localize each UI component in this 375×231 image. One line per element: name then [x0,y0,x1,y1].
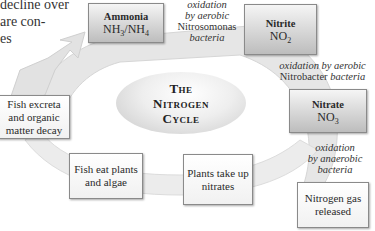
title-line-1: The [169,81,192,96]
fish-eat-line: and algae [85,176,127,189]
nitrogen-gas-line: Nitrogen gas [305,192,362,205]
node-nitrite: Nitrite NO2 [244,4,317,55]
nitrogen-gas-line: released [315,205,351,218]
fish-excreta-line: and organic [8,111,59,124]
title-line-2: Nitrogen [153,96,209,111]
label-nitrite-to-nitrate: oxidation by aerobic Nitrobacter bacteri… [270,60,375,82]
node-nitrogen-gas: Nitrogen gas released [297,182,369,228]
nitrite-formula: NO2 [270,30,291,43]
fish-excreta-line: matter decay [6,124,63,137]
node-plants-take-up: Plants take up nitrates [183,154,253,205]
ammonia-formula: NH3/NH4 [103,23,149,36]
plants-line: nitrates [202,180,234,193]
nitrate-formula: NO3 [317,111,338,124]
fish-eat-line: Fish eat plants [74,163,138,176]
title-line-3: Cycle [163,111,200,126]
node-fish-excreta: Fish excreta and organic matter decay [0,95,70,139]
fish-excreta-line: Fish excreta [7,98,60,111]
node-ammonia: Ammonia NH3/NH4 [88,3,164,43]
node-nitrate: Nitrate NO3 [289,89,367,133]
node-fish-eat: Fish eat plants and algae [69,153,143,199]
title-ellipse: The Nitrogen Cycle [116,72,246,134]
label-nitrate-to-nitrogen: oxidation by anaerobic bacteria [300,142,370,175]
plants-line: Plants take up [187,167,249,180]
label-ammonia-to-nitrite: oxidation by aerobic Nitrosomonas bacter… [172,0,242,43]
